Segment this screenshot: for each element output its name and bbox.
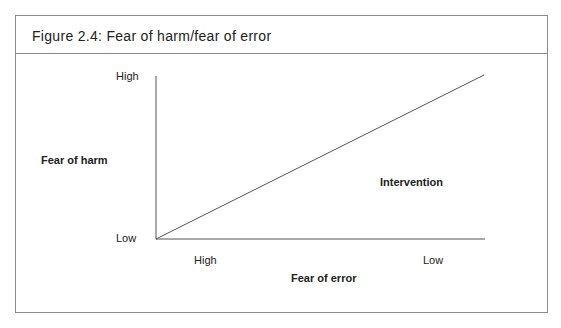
- diagonal-line: [156, 75, 484, 239]
- x-tick-high: High: [194, 254, 217, 266]
- x-tick-low: Low: [423, 254, 443, 266]
- y-axis-label: Fear of harm: [41, 154, 108, 166]
- region-label-intervention: Intervention: [380, 176, 443, 188]
- y-tick-low: Low: [116, 232, 136, 244]
- y-tick-high: High: [116, 70, 139, 82]
- x-axis-label: Fear of error: [291, 272, 356, 284]
